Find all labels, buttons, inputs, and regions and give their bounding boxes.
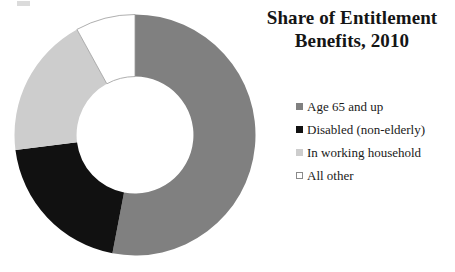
entitlement-benefits-donut-chart: Share of Entitlement Benefits, 2010 Age … xyxy=(0,0,455,272)
donut-slice[interactable] xyxy=(15,142,124,253)
legend-label-age-65-and-up: Age 65 and up xyxy=(307,99,383,114)
legend-item-age-65-and-up[interactable]: Age 65 and up xyxy=(296,95,454,118)
legend-item-all-other[interactable]: All other xyxy=(296,164,454,187)
legend-swatch-icon-all-other xyxy=(296,172,303,179)
page-title: Share of Entitlement Benefits, 2010 xyxy=(252,6,452,52)
legend-item-in-working-household[interactable]: In working household xyxy=(296,141,454,164)
chart-legend: Age 65 and up Disabled (non-elderly) In … xyxy=(296,95,454,187)
legend-label-in-working-household: In working household xyxy=(307,145,421,160)
legend-item-disabled-non-elderly[interactable]: Disabled (non-elderly) xyxy=(296,118,454,141)
legend-label-all-other: All other xyxy=(307,168,354,183)
legend-swatch-icon-age-65-and-up xyxy=(296,103,303,110)
donut-chart-graphic xyxy=(14,14,256,256)
donut-svg xyxy=(14,14,256,256)
donut-slice-group xyxy=(14,15,255,256)
chart-title-line-2: Benefits, 2010 xyxy=(252,29,452,52)
legend-swatch-icon-disabled-non-elderly xyxy=(296,126,303,133)
legend-label-disabled-non-elderly: Disabled (non-elderly) xyxy=(307,122,425,137)
legend-swatch-icon-in-working-household xyxy=(296,149,303,156)
chart-title-line-1: Share of Entitlement xyxy=(252,6,452,29)
scan-artifact xyxy=(17,1,30,6)
